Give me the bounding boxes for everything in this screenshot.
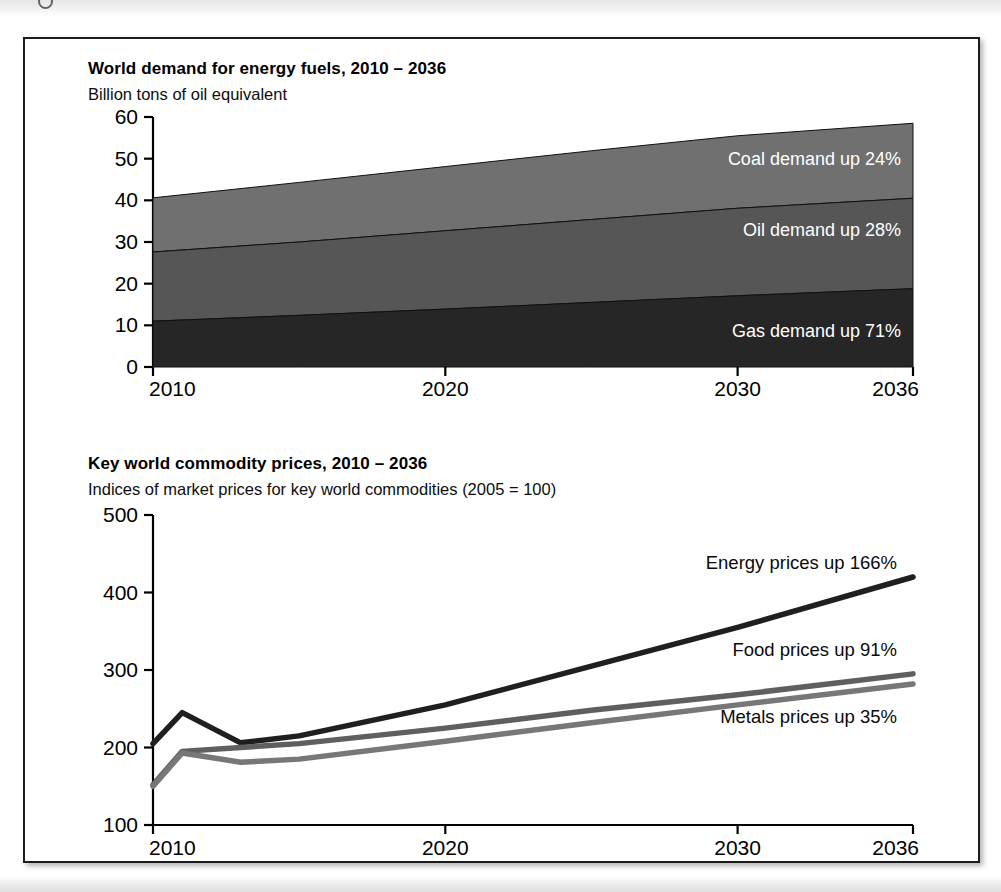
- band-label-coal: Coal demand up 24%: [728, 149, 901, 169]
- svg-text:20: 20: [115, 272, 138, 295]
- panel-subtitle-energy-demand: Billion tons of oil equivalent: [88, 85, 287, 104]
- svg-text:2010: 2010: [149, 836, 196, 859]
- panel-title-energy-demand: World demand for energy fuels, 2010 – 20…: [88, 59, 446, 79]
- series-label-energy: Energy prices up 166%: [706, 552, 897, 573]
- line-metals: [153, 684, 913, 786]
- svg-text:50: 50: [115, 147, 138, 170]
- series-label-food: Food prices up 91%: [732, 639, 897, 660]
- svg-text:0: 0: [126, 355, 138, 378]
- chart-commodity-prices: 100200300400500Energy prices up 166%Food…: [25, 503, 982, 863]
- svg-text:30: 30: [115, 230, 138, 253]
- svg-text:2036: 2036: [872, 836, 919, 859]
- svg-text:300: 300: [103, 658, 138, 681]
- svg-text:400: 400: [103, 581, 138, 604]
- svg-text:10: 10: [115, 313, 138, 336]
- figure-frame: World demand for energy fuels, 2010 – 20…: [23, 37, 980, 863]
- svg-text:500: 500: [103, 503, 138, 526]
- band-label-oil: Oil demand up 28%: [743, 220, 901, 240]
- panel-subtitle-commodity-prices: Indices of market prices for key world c…: [88, 480, 556, 499]
- svg-text:200: 200: [103, 736, 138, 759]
- series-label-metals: Metals prices up 35%: [720, 706, 897, 727]
- svg-text:2036: 2036: [872, 377, 919, 399]
- svg-text:100: 100: [103, 813, 138, 836]
- band-label-gas: Gas demand up 71%: [732, 321, 901, 341]
- panel-title-commodity-prices: Key world commodity prices, 2010 – 2036: [88, 454, 427, 474]
- page-bottom-scan-artifact: [0, 876, 1001, 892]
- svg-text:60: 60: [115, 109, 138, 128]
- svg-text:40: 40: [115, 188, 138, 211]
- svg-text:2010: 2010: [149, 377, 196, 399]
- svg-text:2030: 2030: [714, 836, 761, 859]
- svg-text:2020: 2020: [422, 836, 469, 859]
- page-top-scan-artifact: [0, 0, 1001, 16]
- chart-energy-demand: 0102030405060Coal demand up 24%Oil deman…: [25, 109, 982, 399]
- svg-text:2020: 2020: [422, 377, 469, 399]
- svg-text:2030: 2030: [714, 377, 761, 399]
